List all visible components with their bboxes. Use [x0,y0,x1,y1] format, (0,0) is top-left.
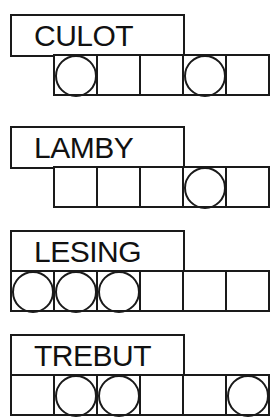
answer-cells [10,374,270,416]
scrambled-word-box: LAMBY [10,126,185,169]
circle-marker-icon [98,375,140,417]
answer-cells [53,54,270,96]
answer-cell-2[interactable] [98,56,141,94]
answer-cell-4[interactable] [184,168,227,206]
scrambled-word-box: TREBUT [10,334,185,377]
scrambled-word-box: CULOT [10,14,185,57]
answer-cell-1[interactable] [12,272,55,310]
answer-cell-5[interactable] [227,56,270,94]
answer-cell-5[interactable] [184,376,227,414]
scrambled-word: CULOT [34,19,133,53]
answer-cells [10,270,270,312]
answer-cell-5[interactable] [184,272,227,310]
scrambled-word: TREBUT [34,339,151,373]
circle-marker-icon [184,167,226,209]
answer-cell-6[interactable] [227,272,270,310]
answer-cell-4[interactable] [141,376,184,414]
answer-cell-3[interactable] [141,168,184,206]
scrambled-word: LAMBY [34,131,133,165]
answer-cells [53,166,270,208]
answer-cell-6[interactable] [227,376,270,414]
scrambled-word-box: LESING [10,230,185,273]
answer-cell-4[interactable] [184,56,227,94]
circle-marker-icon [55,271,97,313]
answer-cell-1[interactable] [12,376,55,414]
answer-cell-3[interactable] [141,56,184,94]
scrambled-word: LESING [34,235,141,269]
answer-cell-3[interactable] [98,376,141,414]
answer-cell-2[interactable] [55,376,98,414]
circle-marker-icon [184,55,226,97]
answer-cell-1[interactable] [55,168,98,206]
answer-cell-5[interactable] [227,168,270,206]
answer-cell-3[interactable] [98,272,141,310]
circle-marker-icon [12,271,54,313]
circle-marker-icon [55,55,97,97]
answer-cell-4[interactable] [141,272,184,310]
answer-cell-1[interactable] [55,56,98,94]
answer-cell-2[interactable] [55,272,98,310]
circle-marker-icon [227,375,269,417]
circle-marker-icon [55,375,97,417]
answer-cell-2[interactable] [98,168,141,206]
circle-marker-icon [98,271,140,313]
